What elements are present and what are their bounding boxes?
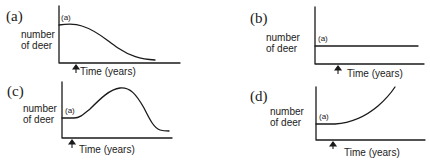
axes-a (59, 6, 180, 63)
axes-d (316, 87, 425, 140)
curve-a (59, 24, 155, 60)
arrow-up-icon-c (69, 140, 75, 148)
axes-c (62, 82, 172, 138)
arrow-up-icon-b (335, 66, 341, 74)
arrow-up-icon-a (73, 65, 79, 73)
curve-d (316, 87, 395, 124)
arrow-up-icon-d (330, 142, 336, 149)
axes-b (315, 7, 424, 64)
curve-c (62, 88, 169, 131)
plots-canvas (0, 0, 430, 167)
